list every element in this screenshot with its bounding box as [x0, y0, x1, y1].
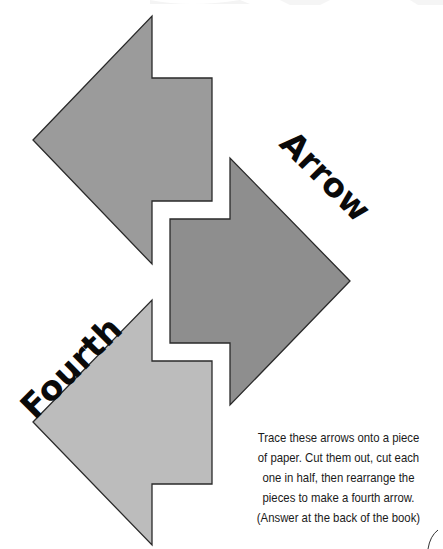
faint-bleed-mark	[410, 0, 443, 5]
faint-bleed-mark	[280, 0, 330, 5]
caption-line: Trace these arrows onto a piece	[234, 428, 443, 448]
page-curl-mark	[428, 530, 438, 549]
caption-line: (Answer at the back of the book)	[234, 508, 443, 528]
caption-line: one in half, then rearrange the	[234, 468, 443, 488]
caption-line: pieces to make a fourth arrow.	[234, 488, 443, 508]
caption-line: of paper. Cut them out, cut each	[234, 448, 443, 468]
puzzle-page: Arrow Fourth Trace these arrows onto a p…	[0, 0, 443, 549]
faint-bleed-mark	[150, 0, 250, 4]
instruction-caption: Trace these arrows onto a piece of paper…	[234, 428, 443, 528]
